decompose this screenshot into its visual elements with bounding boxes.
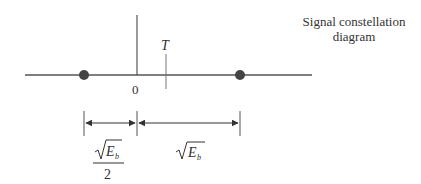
svg-text:E: E (105, 144, 115, 159)
signal-point-right (235, 70, 245, 80)
title-line-2: diagram (296, 29, 412, 44)
label-half-sqrt-eb: E b 2 (93, 140, 124, 182)
label-sqrt-eb: E b (176, 142, 205, 162)
svg-text:b: b (197, 153, 201, 162)
title-line-1: Signal constellation (296, 14, 412, 29)
diagram-title: Signal constellation diagram (296, 14, 412, 44)
signal-point-left (79, 70, 89, 80)
threshold-label: T (161, 38, 170, 53)
svg-text:b: b (115, 152, 119, 161)
svg-text:E: E (187, 145, 197, 160)
origin-label: 0 (132, 82, 139, 97)
svg-text:2: 2 (104, 167, 111, 182)
